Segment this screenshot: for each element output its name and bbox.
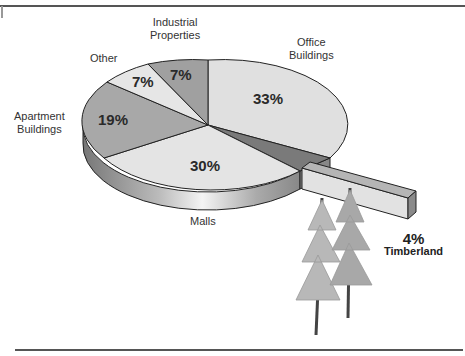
pct-other: 7% [132,73,154,90]
pct-timberland: 4% [384,232,443,245]
label-timberland: 4% Timberland [384,232,443,258]
label-timberland-line1: Timberland [384,245,443,258]
label-industrial-line2: Properties [150,29,200,42]
label-office-line1: Office [289,36,334,49]
label-office-line2: Buildings [289,49,334,62]
label-apartment-line2: Buildings [14,123,65,136]
label-industrial-properties: Industrial Properties [150,16,200,42]
pine-trees-illustration [296,188,372,335]
label-other-line1: Other [90,52,118,65]
label-malls: Malls [190,215,216,228]
label-industrial-line1: Industrial [150,16,200,29]
label-apartment-buildings: Apartment Buildings [14,110,65,136]
pct-malls: 30% [190,157,220,174]
label-other: Other [90,52,118,65]
pct-industrial: 7% [170,66,192,83]
label-apartment-line1: Apartment [14,110,65,123]
bottom-rule [15,349,463,351]
pct-office: 33% [253,90,283,107]
pct-apartment: 19% [98,111,128,128]
pie-chart [0,0,465,356]
label-malls-line1: Malls [190,215,216,228]
label-office-buildings: Office Buildings [289,36,334,62]
